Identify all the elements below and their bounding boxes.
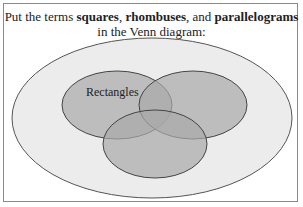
label-rectangles: Rectangles [86, 85, 139, 100]
venn-diagram [0, 0, 303, 207]
venn-circle-bottom [103, 110, 207, 178]
